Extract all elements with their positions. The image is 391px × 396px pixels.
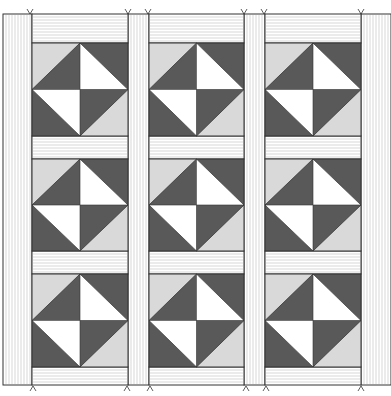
horizontal-sashing-0-2 (32, 251, 128, 274)
quilt-block-r1-c2 (149, 43, 244, 136)
bottom-marker-icon (263, 386, 269, 391)
horizontal-sashing-rect (149, 251, 244, 274)
horizontal-sashing-rect (149, 136, 244, 159)
vertical-sashing-3 (361, 14, 391, 385)
horizontal-sashing-1-0 (149, 14, 244, 43)
top-marker-icon (241, 9, 247, 14)
horizontal-sashing-0-1 (32, 136, 128, 159)
quilt-block-r3-c2 (149, 274, 244, 367)
bottom-marker-icon (124, 386, 130, 391)
vertical-sashing-2 (244, 14, 265, 385)
horizontal-sashing-0-3 (32, 367, 128, 385)
horizontal-sashing-1-1 (149, 136, 244, 159)
horizontal-sashing-rect (265, 14, 361, 43)
bottom-marker-icon (243, 386, 249, 391)
horizontal-sashing-0-0 (32, 14, 128, 43)
quilt-diagram (0, 0, 391, 396)
quilt-block-r2-c3 (265, 159, 361, 251)
top-marker-icon (145, 9, 151, 14)
vertical-sashing-1 (128, 14, 149, 385)
top-marker-icon (261, 9, 267, 14)
horizontal-sashing-rect (32, 136, 128, 159)
quilt-block-r3-c1 (32, 274, 128, 367)
vertical-sashing-0 (3, 14, 32, 385)
bottom-marker-icon (358, 386, 364, 391)
quilt-block-r2-c2 (149, 159, 244, 251)
blocks-layer (32, 43, 361, 367)
top-marker-icon (27, 9, 33, 14)
horizontal-sashing-rect (32, 251, 128, 274)
vertical-sashing-rect (3, 14, 32, 385)
horizontal-sashing-2-1 (265, 136, 361, 159)
horizontal-sashing-rect (149, 14, 244, 43)
horizontal-sashing-rect (265, 251, 361, 274)
horizontal-sashing-1-3 (149, 367, 244, 385)
top-marker-icon (358, 9, 364, 14)
horizontal-sashing-2-0 (265, 14, 361, 43)
quilt-block-r1-c3 (265, 43, 361, 136)
horizontal-sashing-rect (265, 136, 361, 159)
horizontal-sashing-2-3 (265, 367, 361, 385)
horizontal-sashing-rect (32, 14, 128, 43)
horizontal-sashing-1-2 (149, 251, 244, 274)
quilt-block-r3-c3 (265, 274, 361, 367)
quilt-block-r1-c1 (32, 43, 128, 136)
horizontal-sashing-2-2 (265, 251, 361, 274)
quilt-block-r2-c1 (32, 159, 128, 251)
top-marker-icon (125, 9, 131, 14)
bottom-marker-icon (30, 386, 36, 391)
bottom-marker-icon (147, 386, 153, 391)
